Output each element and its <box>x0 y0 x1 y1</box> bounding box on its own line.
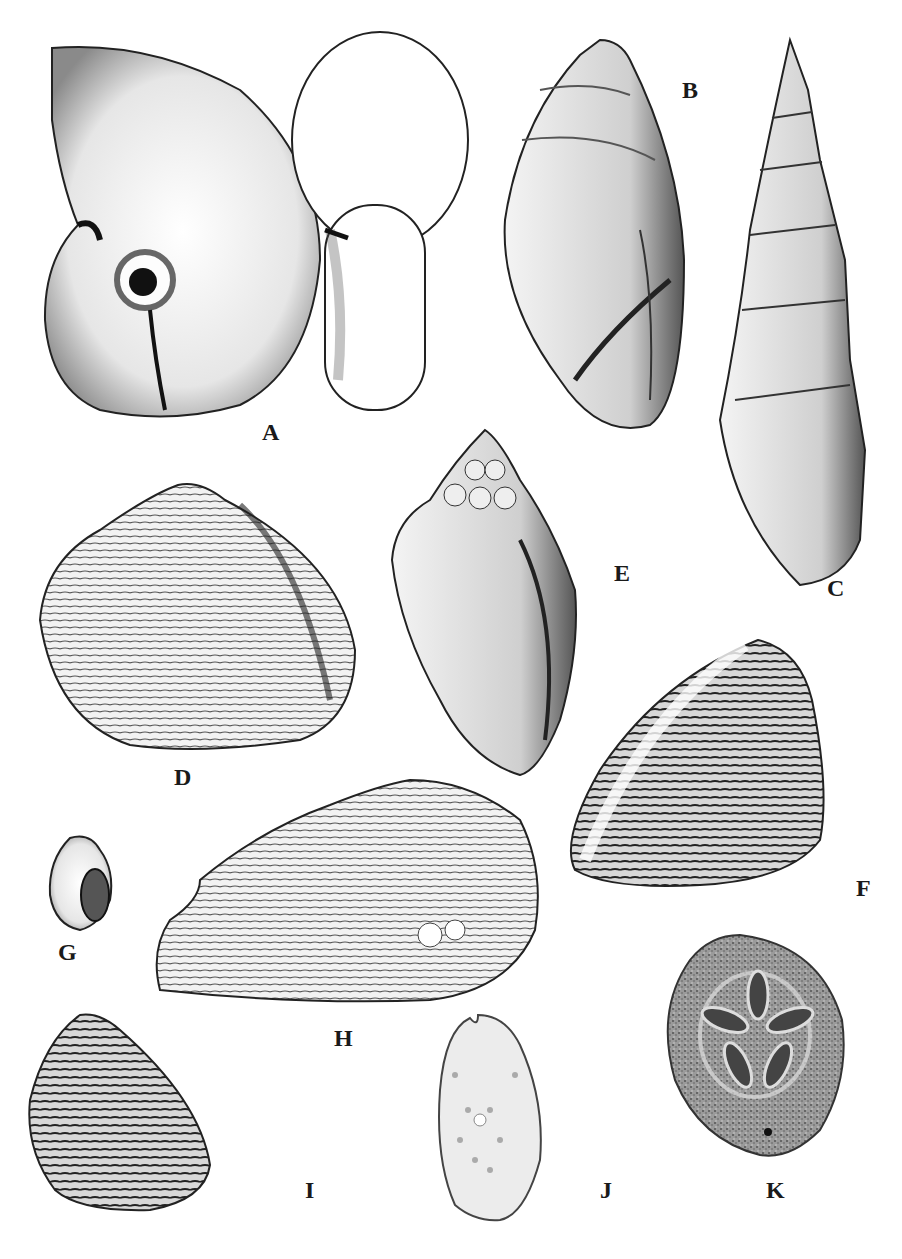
specimen-k <box>668 935 844 1156</box>
specimen-label-e: E <box>614 561 630 585</box>
specimen-plate: A B C D E F G H I J K <box>0 0 902 1259</box>
specimen-label-b: B <box>682 78 698 102</box>
specimen-h <box>157 780 538 1001</box>
specimen-d <box>40 484 355 749</box>
specimen-f <box>571 640 824 886</box>
specimen-i <box>29 1015 210 1211</box>
specimen-b <box>505 40 684 428</box>
specimen-label-k: K <box>766 1178 785 1202</box>
specimen-label-j: J <box>600 1178 612 1202</box>
specimen-label-c: C <box>827 576 844 600</box>
specimen-a-apertural-view <box>45 47 320 417</box>
specimen-g <box>50 837 111 931</box>
specimen-label-a: A <box>262 420 279 444</box>
specimen-label-g: G <box>58 940 77 964</box>
specimen-label-h: H <box>334 1026 353 1050</box>
specimen-label-d: D <box>174 765 191 789</box>
plate-illustrations <box>0 0 902 1259</box>
specimen-label-i: I <box>305 1178 314 1202</box>
specimen-e <box>392 430 576 775</box>
specimen-a-side-view <box>292 32 468 410</box>
specimen-c <box>720 40 865 585</box>
specimen-j <box>439 1015 541 1220</box>
specimen-label-f: F <box>856 876 871 900</box>
